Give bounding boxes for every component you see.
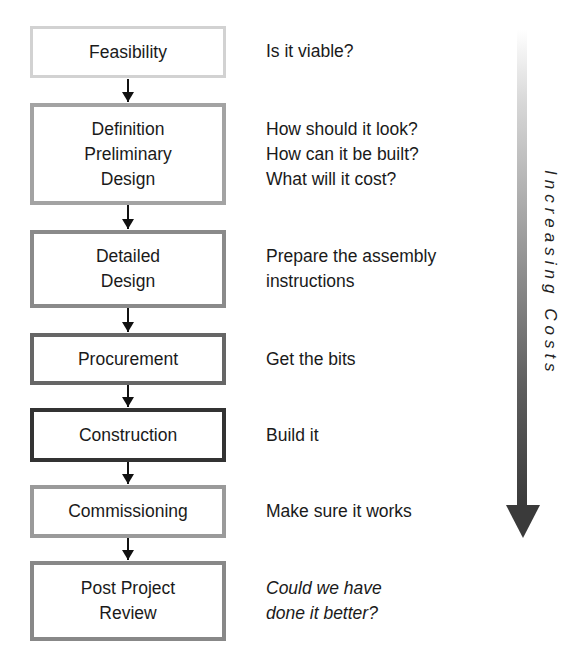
description-line: What will it cost?	[266, 167, 419, 192]
stage-description-feasibility: Is it viable?	[266, 39, 354, 64]
stage-label: Preliminary	[84, 142, 172, 167]
increasing-costs-label: Increasing Costs	[540, 170, 560, 377]
description-line: Make sure it works	[266, 499, 412, 524]
stage-description-detailed-design: Prepare the assembly instructions	[266, 244, 436, 294]
flow-arrow-icon	[127, 385, 129, 407]
flow-arrow-icon	[127, 538, 129, 560]
description-line: Could we have	[266, 576, 382, 601]
flow-arrow-icon	[127, 79, 129, 102]
flow-arrow-icon	[127, 308, 129, 332]
stage-description-construction: Build it	[266, 423, 319, 448]
stage-definition-preliminary-design: Definition Preliminary Design	[30, 103, 226, 205]
stage-description-commissioning: Make sure it works	[266, 499, 412, 524]
stage-label: Review	[99, 601, 156, 626]
stage-construction: Construction	[30, 408, 226, 462]
cost-gradient-arrow-shaft	[517, 30, 527, 506]
stage-label: Post Project	[81, 576, 175, 601]
stage-description-post-project-review: Could we have done it better?	[266, 576, 382, 626]
stage-label: Detailed	[96, 244, 160, 269]
stage-description-procurement: Get the bits	[266, 347, 356, 372]
stage-post-project-review: Post Project Review	[30, 561, 226, 641]
description-line: How should it look?	[266, 117, 419, 142]
description-line: Is it viable?	[266, 39, 354, 64]
stage-feasibility: Feasibility	[30, 26, 226, 78]
stage-detailed-design: Detailed Design	[30, 230, 226, 308]
description-line: Prepare the assembly	[266, 244, 436, 269]
description-line: How can it be built?	[266, 142, 419, 167]
description-line: done it better?	[266, 601, 382, 626]
stage-procurement: Procurement	[30, 333, 226, 385]
stage-label: Construction	[79, 423, 177, 448]
stage-label: Design	[101, 269, 155, 294]
description-line: Get the bits	[266, 347, 356, 372]
flow-arrow-icon	[127, 462, 129, 484]
cost-arrow-head-icon	[506, 505, 540, 538]
flow-arrow-icon	[127, 205, 129, 229]
stage-label: Definition	[92, 117, 165, 142]
stage-label: Design	[101, 167, 155, 192]
stage-label: Feasibility	[89, 40, 167, 65]
description-line: Build it	[266, 423, 319, 448]
stage-label: Procurement	[78, 347, 178, 372]
stage-label: Commissioning	[68, 499, 188, 524]
description-line: instructions	[266, 269, 436, 294]
stage-commissioning: Commissioning	[30, 485, 226, 538]
stage-description-definition: How should it look? How can it be built?…	[266, 117, 419, 192]
